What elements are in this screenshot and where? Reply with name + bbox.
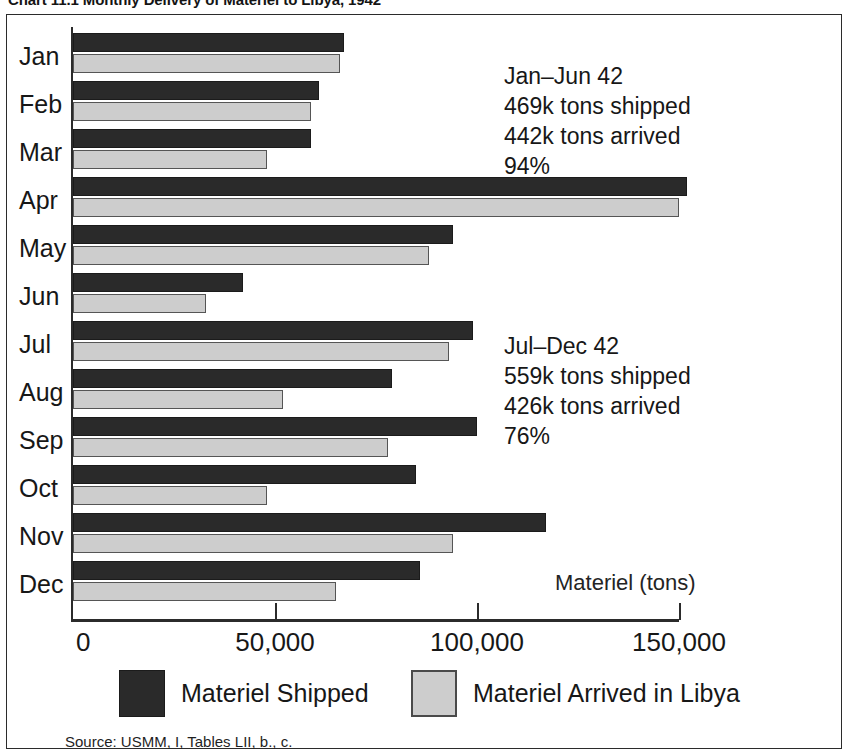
annotation-jan-jun: Jan–Jun 42 469k tons shipped 442k tons a…	[504, 61, 691, 181]
y-axis-category-label: Jul	[19, 330, 51, 359]
bar-arrived	[73, 102, 311, 121]
bar-group-row: Oct	[7, 463, 843, 511]
annotation-line: 94%	[504, 151, 691, 181]
bar-group-row: Mar	[7, 127, 843, 175]
y-axis-category-label: May	[19, 234, 66, 263]
bar-arrived	[73, 438, 388, 457]
y-axis-category-label: Mar	[19, 138, 62, 167]
bar-shipped	[73, 513, 546, 532]
bar-group-row: Aug	[7, 367, 843, 415]
chart-legend: Materiel Shipped Materiel Arrived in Lib…	[7, 670, 843, 726]
page-title: Chart 11.1 Monthly Delivery of Materiel …	[8, 0, 381, 8]
y-axis-category-label: Jun	[19, 282, 59, 311]
bar-group-row: Dec	[7, 559, 843, 607]
annotation-line: Jan–Jun 42	[504, 61, 691, 91]
annotation-jul-dec: Jul–Dec 42 559k tons shipped 426k tons a…	[504, 331, 691, 451]
bar-group-row: Jan	[7, 31, 843, 79]
x-axis-tick-label: 0	[76, 627, 90, 658]
annotation-line: 469k tons shipped	[504, 91, 691, 121]
y-axis-category-label: Dec	[19, 570, 63, 599]
bar-group-row: Nov	[7, 511, 843, 559]
bar-group-row: Sep	[7, 415, 843, 463]
bar-arrived	[73, 342, 449, 361]
x-axis-caption: Materiel (tons)	[555, 570, 696, 596]
bar-group-row: Jul	[7, 319, 843, 367]
x-axis-tick-label: 100,000	[430, 627, 524, 658]
bar-shipped	[73, 369, 392, 388]
y-axis-category-label: Apr	[19, 186, 58, 215]
x-axis-line	[71, 619, 679, 622]
source-note: Source: USMM, I, Tables LII, b., c.	[65, 733, 292, 750]
annotation-line: Jul–Dec 42	[504, 331, 691, 361]
annotation-line: 442k tons arrived	[504, 121, 691, 151]
bar-shipped	[73, 321, 473, 340]
bar-shipped	[73, 465, 416, 484]
bar-arrived	[73, 246, 429, 265]
bar-arrived	[73, 294, 206, 313]
bar-group-row: Feb	[7, 79, 843, 127]
bar-arrived	[73, 582, 336, 601]
bar-shipped	[73, 417, 477, 436]
bar-group-row: Jun	[7, 271, 843, 319]
annotation-line: 426k tons arrived	[504, 391, 691, 421]
legend-item-shipped: Materiel Shipped	[119, 670, 369, 717]
y-axis-category-label: Oct	[19, 474, 58, 503]
x-axis-tick-label: 150,000	[632, 627, 726, 658]
bar-arrived	[73, 54, 340, 73]
y-axis-category-label: Feb	[19, 90, 62, 119]
bar-shipped	[73, 561, 420, 580]
y-axis-category-label: Sep	[19, 426, 63, 455]
bar-arrived	[73, 198, 679, 217]
x-axis-tick-label: 50,000	[235, 627, 315, 658]
bar-arrived	[73, 486, 267, 505]
annotation-line: 559k tons shipped	[504, 361, 691, 391]
bar-group-row: Apr	[7, 175, 843, 223]
annotation-line: 76%	[504, 421, 691, 451]
legend-label-arrived: Materiel Arrived in Libya	[473, 679, 740, 708]
legend-item-arrived: Materiel Arrived in Libya	[411, 670, 740, 717]
bar-arrived	[73, 150, 267, 169]
y-axis-category-label: Nov	[19, 522, 63, 551]
legend-swatch-arrived-icon	[411, 670, 457, 717]
bar-group-row: May	[7, 223, 843, 271]
plot-area: 050,000100,000150,000 JanFebMarAprMayJun…	[7, 15, 843, 635]
bar-shipped	[73, 129, 311, 148]
bar-shipped	[73, 33, 344, 52]
legend-swatch-shipped-icon	[119, 670, 165, 717]
y-axis-category-label: Jan	[19, 42, 59, 71]
legend-label-shipped: Materiel Shipped	[181, 679, 369, 708]
chart-frame: 050,000100,000150,000 JanFebMarAprMayJun…	[6, 14, 842, 749]
y-axis-category-label: Aug	[19, 378, 63, 407]
bar-shipped	[73, 81, 319, 100]
bar-arrived	[73, 390, 283, 409]
bar-shipped	[73, 273, 243, 292]
bar-shipped	[73, 225, 453, 244]
bar-arrived	[73, 534, 453, 553]
